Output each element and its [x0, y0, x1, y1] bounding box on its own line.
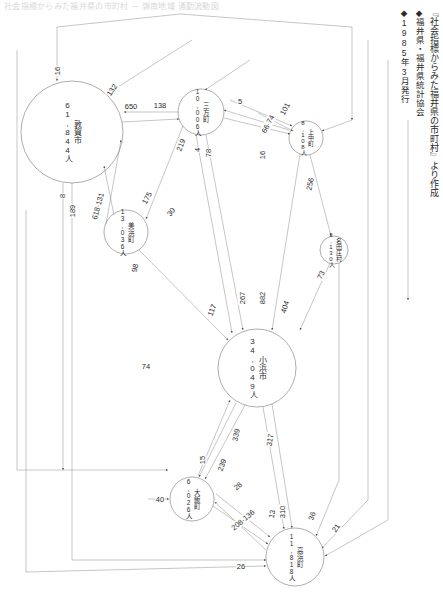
- caption-line-2: ◆福井県・福井県統計協会: [411, 8, 426, 298]
- network-graph-svg: [0, 0, 443, 597]
- node-circles: [21, 81, 348, 586]
- diagram-canvas: 社会指標からみた福井県の市町村 － 嶺南地域 通勤流動図: [0, 0, 443, 597]
- source-caption: 『社会指標からみた福井県の市町村』より作成 ◆福井県・福井県統計協会 ◆1985…: [396, 8, 441, 298]
- edge-lines: [17, 14, 408, 572]
- caption-line-1: 『社会指標からみた福井県の市町村』より作成: [426, 8, 441, 298]
- caption-line-3: ◆1985年3月発行: [396, 8, 411, 298]
